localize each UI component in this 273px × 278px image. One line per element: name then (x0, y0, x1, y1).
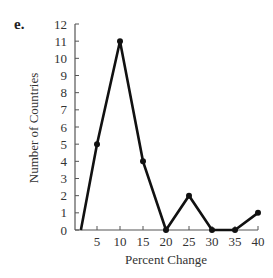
y-axis-label: Number of Countries (26, 73, 41, 183)
x-axis-label: Percent Change (125, 252, 207, 267)
data-point-marker (163, 227, 169, 233)
data-point-marker (232, 227, 238, 233)
plot-area (81, 38, 261, 233)
x-tick-label: 30 (206, 234, 219, 249)
data-point-marker (140, 158, 146, 164)
y-tick-label: 4 (61, 154, 68, 169)
data-point-marker (94, 141, 100, 147)
y-tick-label: 7 (61, 102, 68, 117)
x-tick-label: 25 (183, 234, 196, 249)
y-tick-label: 6 (61, 120, 68, 135)
data-point-marker (117, 38, 123, 44)
x-tick-label: 5 (94, 234, 101, 249)
y-tick-label: 1 (61, 205, 68, 220)
x-tick-label: 35 (229, 234, 242, 249)
y-tick-label: 12 (54, 17, 67, 32)
y-tick-label: 5 (61, 137, 68, 152)
y-tick-label: 10 (54, 51, 67, 66)
data-point-marker (209, 227, 215, 233)
y-tick-label: 3 (61, 171, 68, 186)
frequency-polygon-chart: 0123456789101112510152025303540 Percent … (0, 0, 273, 278)
x-tick-label: 15 (137, 234, 150, 249)
x-tick-label: 20 (160, 234, 173, 249)
y-tick-label: 11 (54, 34, 67, 49)
y-tick-label: 2 (61, 188, 68, 203)
chart-axes: 0123456789101112510152025303540 (54, 17, 265, 250)
y-tick-label: 0 (61, 223, 68, 238)
y-tick-label: 9 (61, 68, 68, 83)
data-point-marker (255, 210, 261, 216)
data-line (81, 41, 258, 230)
data-point-marker (186, 193, 192, 199)
x-tick-label: 10 (114, 234, 127, 249)
y-tick-label: 8 (61, 85, 68, 100)
x-tick-label: 40 (252, 234, 265, 249)
